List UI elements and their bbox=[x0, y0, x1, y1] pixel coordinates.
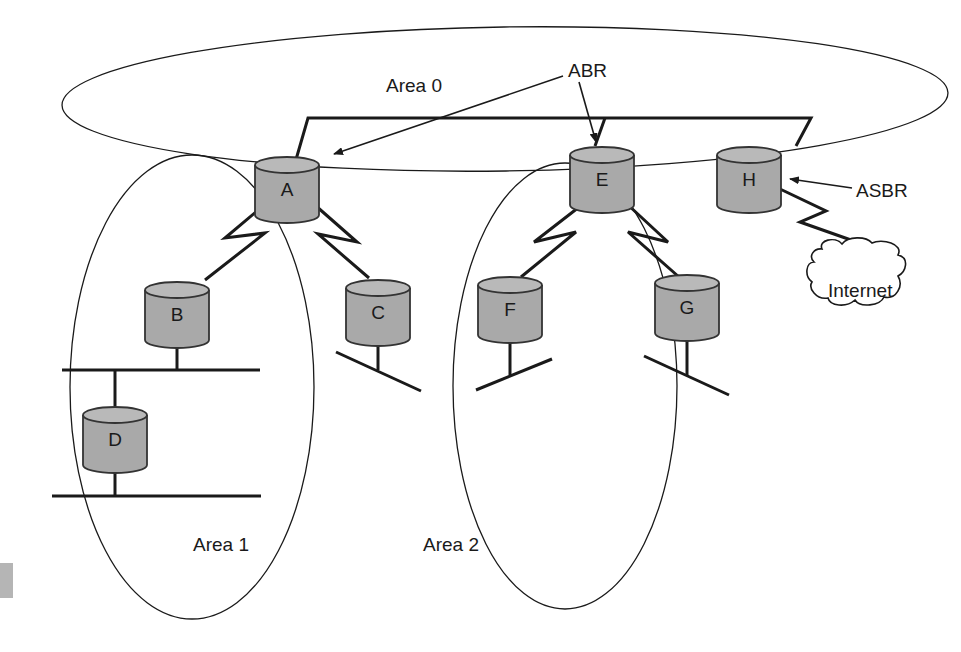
router-f-icon: F bbox=[478, 277, 542, 343]
router-d-label: D bbox=[108, 429, 122, 450]
router-h-label: H bbox=[742, 169, 756, 190]
asbr-callout-label: ASBR bbox=[856, 180, 908, 201]
area-0-boundary bbox=[61, 21, 949, 177]
abr-callout-label: ABR bbox=[568, 60, 607, 81]
router-f-label: F bbox=[504, 299, 516, 320]
router-e-label: E bbox=[596, 169, 609, 190]
router-c-label: C bbox=[371, 302, 385, 323]
router-a-icon: A bbox=[255, 157, 319, 223]
router-g-icon: G bbox=[655, 275, 719, 341]
serial-link-a-c bbox=[316, 206, 369, 278]
asbr-arrow-h bbox=[790, 179, 852, 188]
ospf-area-diagram: ABCDEFGH Area 0 Area 1 Area 2 ABR ASBR I… bbox=[0, 0, 961, 652]
lan-g bbox=[644, 335, 729, 395]
area-1-label: Area 1 bbox=[193, 534, 249, 555]
area-2-label: Area 2 bbox=[423, 534, 479, 555]
router-b-icon: B bbox=[145, 282, 209, 348]
abr-arrow-e bbox=[579, 82, 596, 142]
router-e-icon: E bbox=[570, 147, 634, 213]
router-b-label: B bbox=[171, 304, 184, 325]
area-1-boundary bbox=[70, 155, 314, 619]
router-g-label: G bbox=[680, 297, 695, 318]
serial-link-e-f bbox=[521, 204, 583, 277]
serial-link-h-internet bbox=[780, 189, 851, 240]
router-h-icon: H bbox=[717, 147, 781, 213]
router-c-icon: C bbox=[346, 280, 410, 346]
area-0-label: Area 0 bbox=[386, 75, 442, 96]
abr-arrow-a bbox=[334, 76, 563, 154]
page-margin-marker bbox=[0, 563, 13, 598]
lan-b-d bbox=[62, 340, 260, 406]
serial-link-e-g bbox=[627, 204, 679, 277]
router-d-icon: D bbox=[83, 407, 147, 473]
internet-label: Internet bbox=[828, 280, 893, 301]
router-a-label: A bbox=[281, 179, 294, 200]
